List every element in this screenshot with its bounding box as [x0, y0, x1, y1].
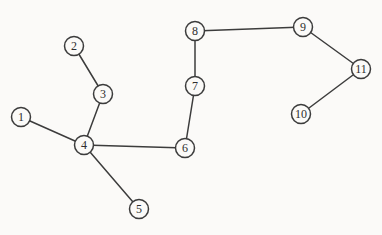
graph-canvas: 1234567891011 — [0, 0, 382, 235]
graph-node-5: 5 — [130, 200, 149, 219]
graph-node-label-6: 6 — [182, 141, 188, 155]
graph-node-6: 6 — [176, 139, 195, 158]
graph-node-1: 1 — [12, 108, 31, 127]
graph-node-label-10: 10 — [295, 107, 307, 121]
graph-node-label-11: 11 — [355, 62, 367, 76]
graph-edge-1-4 — [21, 117, 84, 145]
graph-node-label-5: 5 — [136, 202, 142, 216]
graph-node-label-4: 4 — [81, 138, 87, 152]
graph-node-label-9: 9 — [300, 20, 306, 34]
graph-node-8: 8 — [186, 22, 205, 41]
graph-node-label-7: 7 — [192, 79, 198, 93]
nodes-layer: 1234567891011 — [12, 18, 371, 219]
graph-node-9: 9 — [294, 18, 313, 37]
graph-node-4: 4 — [75, 136, 94, 155]
graph-edge-8-9 — [195, 27, 303, 31]
graph-figure: 1234567891011 — [0, 0, 382, 235]
graph-node-10: 10 — [292, 105, 311, 124]
graph-node-label-2: 2 — [71, 39, 77, 53]
graph-node-3: 3 — [94, 85, 113, 104]
graph-edge-10-11 — [301, 69, 361, 114]
graph-node-11: 11 — [352, 60, 371, 79]
graph-node-2: 2 — [65, 37, 84, 56]
graph-node-label-1: 1 — [18, 110, 24, 124]
graph-edge-4-5 — [84, 145, 139, 209]
graph-edge-9-11 — [303, 27, 361, 69]
graph-node-label-8: 8 — [192, 24, 198, 38]
graph-node-7: 7 — [186, 77, 205, 96]
graph-node-label-3: 3 — [100, 87, 106, 101]
graph-edge-4-6 — [84, 145, 185, 148]
